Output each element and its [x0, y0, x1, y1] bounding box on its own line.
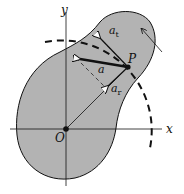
origin-label: O: [55, 131, 65, 145]
rigid-body: [17, 12, 156, 180]
kinematics-diagram: x y O P a at ar: [0, 0, 184, 194]
y-axis-label: y: [60, 3, 68, 17]
x-axis-label: x: [166, 122, 173, 136]
vector-a-label: a: [98, 63, 105, 76]
point-p-label: P: [127, 52, 137, 66]
